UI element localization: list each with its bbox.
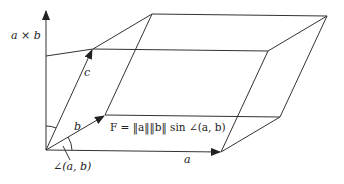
angle-arc-ab <box>68 137 72 150</box>
edge <box>152 14 327 16</box>
vector-b-label: b <box>74 121 81 132</box>
edge <box>221 51 268 152</box>
edge <box>93 49 268 51</box>
angle-pointer <box>63 146 70 160</box>
edge <box>105 115 280 117</box>
angle-label: ∠(a, b) <box>53 161 91 172</box>
angle-arc-axis-c <box>46 126 56 128</box>
edge <box>268 16 327 51</box>
edge <box>93 14 152 49</box>
vector-a <box>46 150 220 152</box>
vector-c-label: c <box>84 67 90 78</box>
vector-c <box>46 50 92 150</box>
edge <box>221 117 280 152</box>
area-formula: F = ‖a‖‖b‖ sin ∠(a, b) <box>110 122 226 133</box>
cross-product-label: a × b <box>11 30 41 41</box>
edge <box>105 14 152 115</box>
height-projection-line <box>46 49 93 56</box>
parallelepiped-diagram <box>0 0 344 184</box>
edge <box>280 16 327 117</box>
vector-a-label: a <box>184 154 191 165</box>
